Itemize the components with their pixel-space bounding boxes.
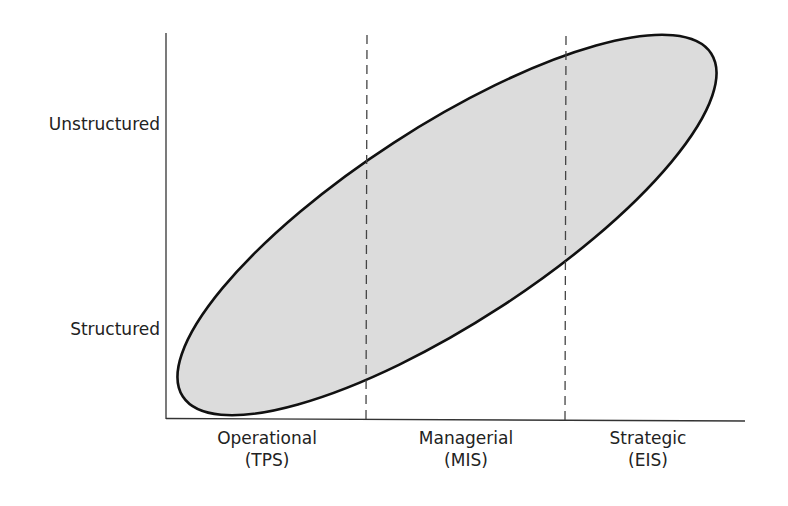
x-axis-line — [166, 419, 745, 422]
x-category-operational: Operational (TPS) — [217, 427, 317, 471]
category-name: Operational — [217, 427, 317, 449]
category-system: (EIS) — [610, 449, 687, 471]
y-label-structured: Structured — [70, 319, 160, 339]
category-name: Strategic — [610, 427, 687, 449]
category-system: (MIS) — [419, 449, 513, 471]
category-system: (TPS) — [217, 449, 317, 471]
y-label-unstructured: Unstructured — [49, 114, 160, 134]
decision-structure-ellipse — [129, 0, 764, 479]
category-name: Managerial — [419, 427, 513, 449]
x-category-strategic: Strategic (EIS) — [610, 427, 687, 471]
x-category-managerial: Managerial (MIS) — [419, 427, 513, 471]
